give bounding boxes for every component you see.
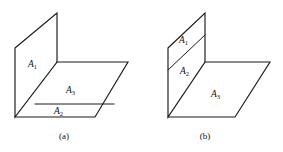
panel-a: A1 A3 A2 (a) [15,13,128,141]
panel-a-label-a1: A1 [27,59,37,70]
figure-root: A1 A3 A2 (a) A1 [0,0,283,152]
panel-a-label-a2: A2 [53,106,63,117]
panel-a-caption: (a) [59,131,69,141]
panel-a-label-a3: A3 [65,85,75,96]
panel-b-label-a2: A2 [179,66,189,77]
panel-b-caption: (b) [200,131,211,141]
panel-b-label-a3: A3 [210,89,220,100]
panel-b: A1 A2 A3 (b) [168,13,270,141]
geometry-figure: A1 A3 A2 (a) A1 [0,0,283,152]
panel-b-label-a1: A1 [178,35,188,46]
